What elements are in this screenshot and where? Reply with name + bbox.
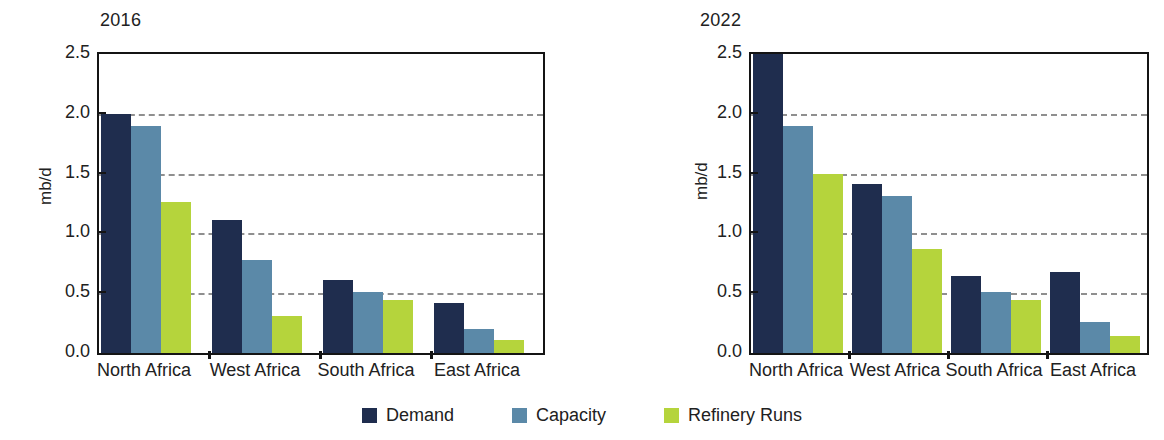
plot-area-2016 bbox=[97, 52, 545, 355]
y-tick-mark bbox=[749, 231, 758, 233]
bar bbox=[783, 126, 813, 353]
y-tick-mark bbox=[97, 112, 106, 114]
y-tick-mark bbox=[749, 112, 758, 114]
bar bbox=[323, 280, 353, 353]
y-tick-label: 2.0 bbox=[698, 101, 742, 122]
bar bbox=[912, 249, 942, 353]
legend-label-demand: Demand bbox=[386, 405, 454, 426]
x-tick-mark bbox=[430, 351, 433, 359]
x-tick-mark bbox=[1046, 351, 1049, 359]
bar bbox=[951, 276, 981, 353]
bar bbox=[161, 202, 191, 353]
bar bbox=[131, 126, 161, 353]
x-tick-label: South Africa bbox=[317, 360, 414, 381]
panel-title-2016: 2016 bbox=[100, 10, 141, 31]
bar bbox=[1050, 272, 1080, 353]
x-tick-label: East Africa bbox=[1050, 360, 1136, 381]
bar bbox=[1011, 300, 1041, 353]
y-tick-mark bbox=[749, 172, 758, 174]
legend-swatch-capacity bbox=[512, 408, 527, 423]
bar bbox=[212, 220, 242, 353]
bar bbox=[882, 196, 912, 353]
bar bbox=[353, 292, 383, 353]
bar bbox=[852, 184, 882, 353]
x-tick-mark bbox=[848, 351, 851, 359]
x-tick-label: West Africa bbox=[850, 360, 941, 381]
chart-figure: 2016 mb/d 0.00.51.01.52.02.5North Africa… bbox=[0, 0, 1164, 440]
x-tick-mark bbox=[947, 351, 950, 359]
legend-item-refinery-runs: Refinery Runs bbox=[664, 405, 802, 426]
y-tick-label: 1.0 bbox=[46, 221, 90, 242]
y-tick-mark bbox=[97, 172, 106, 174]
bar bbox=[1080, 322, 1110, 353]
y-tick-label: 0.5 bbox=[46, 281, 90, 302]
legend-label-refinery-runs: Refinery Runs bbox=[688, 405, 802, 426]
y-tick-label: 0.0 bbox=[698, 341, 742, 362]
gridline bbox=[751, 114, 1147, 116]
y-tick-label: 1.0 bbox=[698, 221, 742, 242]
y-tick-label: 0.0 bbox=[46, 341, 90, 362]
bar bbox=[434, 303, 464, 353]
bar bbox=[813, 174, 843, 353]
legend-swatch-refinery-runs bbox=[664, 408, 679, 423]
y-tick-label: 0.5 bbox=[698, 281, 742, 302]
legend-item-capacity: Capacity bbox=[512, 405, 606, 426]
legend-swatch-demand bbox=[362, 408, 377, 423]
bar bbox=[272, 316, 302, 353]
x-tick-label: North Africa bbox=[749, 360, 843, 381]
chart-panel-2016: 2016 mb/d 0.00.51.01.52.02.5North Africa… bbox=[0, 0, 582, 400]
bar bbox=[494, 340, 524, 353]
bar bbox=[981, 292, 1011, 353]
y-tick-label: 1.5 bbox=[698, 161, 742, 182]
bar bbox=[101, 114, 131, 353]
gridline bbox=[99, 174, 543, 176]
x-tick-label: West Africa bbox=[210, 360, 301, 381]
bar bbox=[383, 300, 413, 353]
legend-label-capacity: Capacity bbox=[536, 405, 606, 426]
gridline bbox=[99, 114, 543, 116]
x-tick-label: East Africa bbox=[434, 360, 520, 381]
y-tick-label: 1.5 bbox=[46, 161, 90, 182]
x-tick-label: North Africa bbox=[97, 360, 191, 381]
y-tick-mark bbox=[749, 291, 758, 293]
x-tick-mark bbox=[208, 351, 211, 359]
chart-legend: Demand Capacity Refinery Runs bbox=[0, 398, 1164, 432]
bar bbox=[242, 260, 272, 353]
y-tick-mark bbox=[97, 231, 106, 233]
y-tick-label: 2.0 bbox=[46, 101, 90, 122]
y-tick-label: 2.5 bbox=[46, 42, 90, 63]
legend-item-demand: Demand bbox=[362, 405, 454, 426]
x-tick-mark bbox=[319, 351, 322, 359]
y-tick-label: 2.5 bbox=[698, 42, 742, 63]
bar bbox=[464, 329, 494, 353]
x-tick-label: South Africa bbox=[945, 360, 1042, 381]
panel-title-2022: 2022 bbox=[700, 10, 741, 31]
bar bbox=[753, 52, 783, 353]
plot-area-2022 bbox=[749, 52, 1149, 355]
y-tick-mark bbox=[97, 291, 106, 293]
bar bbox=[1110, 336, 1140, 353]
chart-panel-2022: 2022 mb/d 0.00.51.01.52.02.5North Africa… bbox=[582, 0, 1164, 400]
